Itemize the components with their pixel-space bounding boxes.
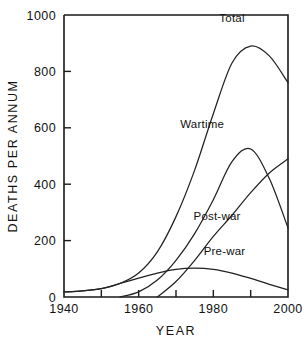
series-line-total: [64, 46, 288, 292]
chart-figure: 020040060080010001940196019802000YEARDEA…: [0, 0, 307, 343]
y-tick-label: 200: [34, 234, 56, 248]
y-axis-title: DEATHS PER ANNUM: [6, 79, 20, 232]
series-label-total: Total: [219, 12, 244, 24]
series-label-pre-war: Pre-war: [204, 245, 246, 257]
series-label-wartime: Wartime: [180, 118, 224, 130]
x-tick-label: 1980: [199, 302, 228, 316]
series-label-post-war: Post-war: [194, 210, 241, 222]
line-chart: 020040060080010001940196019802000YEARDEA…: [0, 0, 307, 343]
series-line-wartime: [120, 148, 288, 297]
x-axis-title: YEAR: [156, 324, 196, 338]
axis-frame: [64, 15, 288, 297]
y-tick-label: 600: [34, 121, 56, 135]
y-tick-label: 1000: [27, 9, 56, 23]
y-tick-label: 400: [34, 178, 56, 192]
x-tick-label: 2000: [273, 302, 302, 316]
series-line-pre-war: [64, 268, 288, 292]
x-tick-label: 1960: [124, 302, 153, 316]
x-tick-label: 1940: [49, 302, 78, 316]
y-tick-label: 800: [34, 65, 56, 79]
